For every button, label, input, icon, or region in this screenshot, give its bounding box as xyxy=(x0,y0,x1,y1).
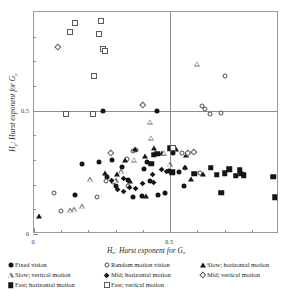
data-point xyxy=(241,173,247,179)
data-point xyxy=(67,29,73,35)
circle-open-icon xyxy=(102,261,111,269)
data-point xyxy=(219,111,224,116)
data-point xyxy=(132,146,138,151)
data-point xyxy=(176,170,181,175)
data-point xyxy=(98,18,104,24)
data-point xyxy=(167,162,173,167)
x-axis-tick-label: 0 xyxy=(31,238,34,245)
legend-label: Random motion vision xyxy=(111,261,170,269)
data-point xyxy=(143,193,149,198)
y-axis-tick xyxy=(33,209,36,210)
legend-item[interactable]: Fixed vision xyxy=(6,261,102,269)
data-point xyxy=(222,74,227,79)
legend-label: Fast; horizontal motion xyxy=(15,281,75,289)
data-point xyxy=(202,107,207,112)
data-point xyxy=(96,160,101,165)
data-point xyxy=(155,193,160,198)
data-point xyxy=(90,111,96,117)
data-point xyxy=(58,208,63,213)
diamond-open-icon xyxy=(198,271,207,279)
square-filled-icon xyxy=(6,281,15,289)
data-point xyxy=(148,161,154,167)
legend-item[interactable]: Mid; horizontal motion xyxy=(102,271,198,279)
triangle-open-icon xyxy=(6,271,15,279)
y-axis-tick xyxy=(33,160,36,161)
y-axis-tick-label: 0.5 xyxy=(16,106,29,113)
legend-item[interactable]: Random motion vision xyxy=(102,261,198,269)
legend-label: Fast; vertical motion xyxy=(111,281,164,289)
legend: Fixed visionRandom motion visionSlow; ho… xyxy=(6,261,288,292)
data-point xyxy=(170,145,176,151)
x-axis-title: Hx: Hurst exponent for Gx xyxy=(0,246,292,255)
legend-item[interactable]: Slow; horizontal motion xyxy=(198,261,288,269)
data-point xyxy=(107,149,114,156)
data-point xyxy=(149,171,156,178)
x-axis-tick xyxy=(61,230,62,233)
legend-label: Mid; horizontal motion xyxy=(111,271,171,279)
data-point xyxy=(91,73,97,79)
chart-figure: Hx: Hurst exponent for Gx Hy: Hurst expo… xyxy=(0,0,292,304)
data-point xyxy=(63,111,69,117)
y-axis-tick xyxy=(33,111,38,112)
data-point xyxy=(109,158,114,163)
data-point xyxy=(108,177,115,184)
triangle-filled-icon xyxy=(198,261,207,269)
y-axis-tick xyxy=(33,185,36,186)
data-point xyxy=(79,161,84,166)
data-point xyxy=(148,135,154,140)
data-point xyxy=(36,214,42,219)
square-open-icon xyxy=(102,281,111,289)
data-point xyxy=(151,145,157,150)
circle-filled-icon xyxy=(6,261,15,269)
x-axis-tick-label: 0.5 xyxy=(165,238,173,245)
data-point xyxy=(214,172,220,178)
data-point xyxy=(200,171,206,176)
data-point xyxy=(272,194,278,200)
legend-label: Slow; horizontal motion xyxy=(207,261,269,269)
data-point xyxy=(270,174,276,180)
data-point xyxy=(114,186,121,193)
data-point xyxy=(101,108,106,113)
data-point xyxy=(208,111,213,116)
legend-item[interactable]: Slow; vertical motion xyxy=(6,271,102,279)
x-axis-tick xyxy=(252,230,253,233)
data-point xyxy=(162,190,167,195)
data-point xyxy=(102,170,108,175)
data-point xyxy=(147,119,153,124)
y-axis-tick xyxy=(33,135,36,136)
y-axis-tick-label: 0 xyxy=(16,230,29,237)
diamond-filled-icon xyxy=(102,271,111,279)
y-axis-tick xyxy=(33,234,38,235)
data-point xyxy=(182,183,187,188)
legend-label: Slow; vertical motion xyxy=(15,271,70,279)
legend-item[interactable]: Mid; vertical motion xyxy=(198,271,288,279)
legend-row: Fast; horizontal motionFast; vertical mo… xyxy=(6,281,288,289)
data-point xyxy=(194,61,200,66)
data-point xyxy=(73,192,78,197)
data-point xyxy=(191,171,197,177)
x-axis-tick xyxy=(225,230,226,233)
data-point xyxy=(182,165,188,170)
data-point xyxy=(118,169,124,174)
data-point xyxy=(130,194,135,199)
data-point xyxy=(132,185,139,192)
legend-item[interactable]: Fast; horizontal motion xyxy=(6,281,102,289)
data-point xyxy=(95,194,100,199)
legend-item[interactable]: Fast; vertical motion xyxy=(102,281,198,289)
data-point xyxy=(141,167,146,172)
data-point xyxy=(208,165,214,171)
y-axis-tick xyxy=(33,61,36,62)
data-point xyxy=(122,158,128,163)
plot-area xyxy=(33,11,278,233)
data-point xyxy=(87,177,93,182)
x-axis-tick xyxy=(88,230,89,233)
x-axis-tick xyxy=(170,228,171,233)
data-point xyxy=(131,157,137,162)
data-point xyxy=(219,190,225,196)
x-axis-tick xyxy=(34,228,35,233)
legend-label: Mid; vertical motion xyxy=(207,271,260,279)
data-point xyxy=(188,176,194,181)
data-point xyxy=(102,48,108,54)
legend-row: Slow; vertical motionMid; horizontal mot… xyxy=(6,271,288,279)
x-axis-tick xyxy=(197,230,198,233)
